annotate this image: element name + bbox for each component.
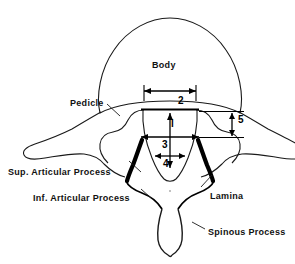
right-inferior-articular-outline bbox=[178, 181, 214, 209]
spinous-process-tip bbox=[168, 255, 172, 257]
spinous-process-right-edge bbox=[172, 209, 182, 255]
left-lamina-bold bbox=[127, 140, 142, 181]
dimension-label-5: 5 bbox=[238, 115, 244, 125]
spinous-process-left-edge bbox=[158, 209, 168, 255]
dimension-label-3: 3 bbox=[162, 140, 168, 150]
vertebra-illustration bbox=[0, 0, 295, 264]
right-transverse-process bbox=[201, 112, 295, 177]
spinal-canal-left-wall bbox=[143, 110, 164, 179]
midline-marker bbox=[169, 190, 170, 191]
label-superior-articular-process: Sup. Articular Process bbox=[8, 168, 111, 177]
spinal-canal-apex bbox=[164, 179, 176, 181]
left-inferior-articular-outline bbox=[126, 181, 162, 209]
dimension-2-arrow bbox=[144, 85, 196, 101]
spinal-canal-right-wall bbox=[176, 110, 197, 179]
right-lamina-bold bbox=[198, 140, 213, 181]
label-pedicle: Pedicle bbox=[70, 99, 104, 108]
spinous-leader-line bbox=[192, 222, 205, 229]
dimension-label-2: 2 bbox=[178, 96, 184, 106]
label-body: Body bbox=[152, 61, 176, 70]
label-spinous-process: Spinous Process bbox=[208, 228, 286, 237]
vertebra-diagram: Body Pedicle Sup. Articular Process Inf.… bbox=[0, 0, 295, 264]
label-inferior-articular-process: Inf. Articular Process bbox=[33, 194, 130, 203]
dimension-label-1: l bbox=[171, 119, 174, 129]
dimension-label-4: 4 bbox=[163, 159, 169, 169]
label-lamina: Lamina bbox=[210, 192, 243, 201]
